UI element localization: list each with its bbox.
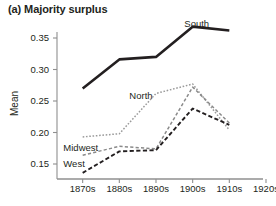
- series-line-north: [83, 84, 230, 137]
- series-line-south: [83, 27, 230, 89]
- series-line-west: [83, 109, 230, 173]
- plot-area: [0, 0, 276, 206]
- series-line-midwest: [83, 87, 230, 155]
- chart-figure: (a) Majority surplus Mean 0.150.200.250.…: [0, 0, 276, 206]
